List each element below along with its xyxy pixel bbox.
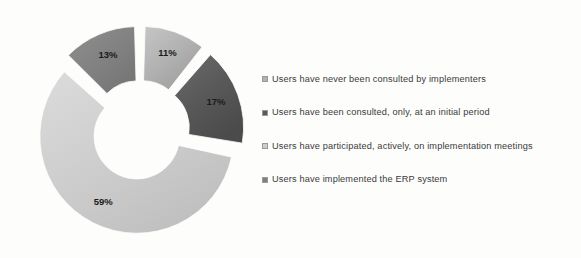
legend-swatch-icon <box>262 177 268 183</box>
legend-item-label: Users have participated, actively, on im… <box>272 141 533 151</box>
pie-slice-label: 59% <box>94 196 114 207</box>
pie-slice-label: 13% <box>98 49 118 60</box>
chart-legend: Users have never been consulted by imple… <box>262 62 574 196</box>
legend-swatch-icon <box>262 110 268 116</box>
legend-item[interactable]: Users have implemented the ERP system <box>262 163 574 197</box>
slices-group <box>40 26 244 233</box>
legend-item-label: Users have implemented the ERP system <box>272 174 447 184</box>
chart-figure: 11%17%59%13% Users have never been consu… <box>0 0 581 258</box>
legend-swatch-icon <box>262 143 268 149</box>
doughnut-chart: 11%17%59%13% <box>18 8 262 252</box>
legend-item-label: Users have never been consulted by imple… <box>272 74 486 84</box>
legend-item[interactable]: Users have been consulted, only, at an i… <box>262 96 574 130</box>
pie-slice-label: 17% <box>207 96 227 107</box>
legend-swatch-icon <box>262 76 268 82</box>
legend-item[interactable]: Users have never been consulted by imple… <box>262 62 574 96</box>
doughnut-svg: 11%17%59%13% <box>18 8 262 252</box>
legend-item[interactable]: Users have participated, actively, on im… <box>262 129 574 163</box>
pie-slice-label: 11% <box>158 47 177 58</box>
legend-item-label: Users have been consulted, only, at an i… <box>272 107 490 117</box>
